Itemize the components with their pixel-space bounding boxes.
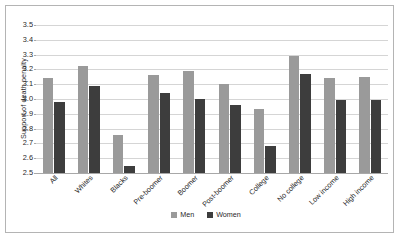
bar-group: [247, 25, 282, 173]
bar-men-blacks: [113, 135, 124, 173]
bar-women-college: [265, 146, 276, 173]
bar-group: [282, 25, 317, 173]
y-axis-tick-label: 2.8: [23, 125, 33, 132]
bar-group: [177, 25, 212, 173]
bar-men-college: [254, 109, 265, 173]
chart-figure: Support of death penalty 3.53.43.33.23.1…: [0, 0, 400, 243]
legend-swatch-men: [171, 212, 177, 218]
y-axis-tick-label: 3.2: [23, 66, 33, 73]
y-axis-tick-label: 2.9: [23, 110, 33, 117]
bar-men-post-boomer: [219, 84, 230, 173]
y-axis-tick-label: 2.7: [23, 140, 33, 147]
bar-men-high-income: [359, 77, 370, 173]
bar-men-no-college: [289, 56, 300, 173]
y-axis-tick-label: 3.4: [23, 36, 33, 43]
legend-label: Men: [180, 211, 194, 218]
bar-group: [36, 25, 71, 173]
bar-women-no-college: [300, 74, 311, 173]
legend-item-women[interactable]: Women: [207, 211, 241, 218]
bar-women-all: [54, 102, 65, 173]
bar-women-pre-boomer: [160, 93, 171, 173]
bar-men-whites: [78, 66, 89, 173]
y-axis-tick-label: 3.3: [23, 51, 33, 58]
legend-item-men[interactable]: Men: [171, 211, 194, 218]
bar-women-blacks: [124, 166, 135, 173]
plot-area: 3.53.43.33.23.13.02.92.82.72.62.5: [36, 25, 388, 173]
bar-women-low-income: [336, 100, 347, 173]
legend-swatch-women: [207, 212, 213, 218]
y-axis-tick-label: 3.5: [23, 21, 33, 28]
y-axis-tick-label: 3.1: [23, 80, 33, 87]
bar-series-container: [36, 25, 388, 173]
bar-men-boomer: [183, 71, 194, 173]
bar-women-high-income: [371, 100, 382, 173]
chart-frame: Support of death penalty 3.53.43.33.23.1…: [5, 5, 394, 233]
bar-group: [71, 25, 106, 173]
y-axis-tick-label: 2.6: [23, 154, 33, 161]
bar-men-pre-boomer: [148, 75, 159, 173]
bar-men-all: [43, 78, 54, 173]
bar-group: [142, 25, 177, 173]
bar-women-whites: [89, 86, 100, 173]
bar-women-post-boomer: [230, 105, 241, 173]
bar-group: [318, 25, 353, 173]
y-axis-tick-label: 2.5: [23, 169, 33, 176]
bar-men-low-income: [324, 78, 335, 173]
bar-women-boomer: [195, 99, 206, 173]
y-axis-tick-label: 3.0: [23, 95, 33, 102]
bar-group: [106, 25, 141, 173]
bar-group: [353, 25, 388, 173]
legend-label: Women: [216, 211, 241, 218]
bar-group: [212, 25, 247, 173]
chart-legend: MenWomen: [6, 211, 400, 218]
